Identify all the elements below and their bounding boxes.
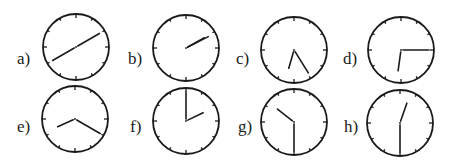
clock-label: a): [17, 50, 30, 67]
center-pivot: [185, 120, 187, 122]
center-pivot: [399, 122, 401, 124]
hand-2: [53, 48, 75, 61]
clock-label: f): [130, 118, 141, 135]
center-pivot: [185, 47, 187, 49]
clock-faces: [0, 0, 455, 167]
hand-1: [78, 34, 100, 47]
clock-a: [43, 14, 109, 80]
short-hand: [277, 109, 292, 121]
clock-label: e): [17, 118, 30, 135]
short-hand: [58, 120, 74, 127]
center-pivot: [400, 49, 402, 51]
clock-d: [368, 17, 434, 83]
clock-e: [42, 86, 108, 152]
clock-label: b): [128, 50, 142, 67]
clock-b: [153, 15, 219, 81]
center-pivot: [293, 121, 295, 123]
short-hand: [188, 113, 203, 120]
center-pivot: [75, 46, 77, 48]
clock-g: [261, 89, 327, 155]
long-hand: [295, 52, 308, 73]
clock-h: [367, 90, 433, 156]
center-pivot: [293, 49, 295, 51]
long-hand: [77, 120, 100, 134]
center-pivot: [74, 118, 76, 120]
clock-label: c): [236, 50, 249, 67]
short-hand: [398, 52, 401, 71]
clock-figure: a)b)c)d)e)f)g)h): [0, 0, 455, 167]
clock-label: d): [343, 50, 357, 67]
short-hand: [188, 38, 205, 47]
short-hand: [401, 103, 407, 121]
clock-label: h): [344, 118, 358, 135]
clock-label: g): [238, 118, 252, 135]
clock-f: [153, 88, 219, 154]
clock-c: [261, 17, 327, 83]
short-hand: [289, 52, 294, 68]
